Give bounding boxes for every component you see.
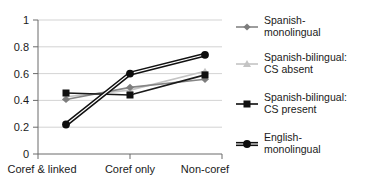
- y-tick-label-0: 0: [23, 148, 29, 160]
- markers-english-monolingual: [62, 51, 209, 129]
- legend-label-spanish-bilingual-cs-absent-line2: CS absent: [264, 63, 313, 75]
- chart-figure: 1 0.8 0.6 0.4 0.2 0 Coref & linked Coref…: [0, 0, 370, 184]
- legend-item-spanish-monolingual[interactable]: Spanish- monolingual: [236, 14, 321, 38]
- x-cat-label-non-coref: Non-coref: [181, 163, 230, 175]
- legend-item-spanish-bilingual-cs-absent[interactable]: Spanish-bilingual: CS absent: [236, 51, 347, 75]
- legend-label-spanish-bilingual-cs-present-line2: CS present: [264, 103, 317, 115]
- y-tick-label-0.6: 0.6: [14, 68, 29, 80]
- line-chart-svg: 1 0.8 0.6 0.4 0.2 0 Coref & linked Coref…: [0, 0, 370, 184]
- x-axis: Coref & linked Coref only Non-coref: [7, 154, 230, 175]
- y-tick-label-0.4: 0.4: [14, 94, 29, 106]
- legend-label-spanish-bilingual-cs-absent-line1: Spanish-bilingual:: [264, 51, 347, 63]
- legend-marker-circle-icon: [243, 140, 251, 148]
- x-cat-label-coref-and-linked: Coref & linked: [7, 163, 76, 175]
- x-cat-label-coref-only: Coref only: [105, 163, 156, 175]
- legend-marker-diamond-icon: [243, 23, 250, 30]
- y-tick-label-1.0: 1: [23, 14, 29, 26]
- legend-label-english-monolingual-line1: English-: [264, 131, 302, 143]
- y-tick-label-0.2: 0.2: [14, 121, 29, 133]
- y-tick-label-0.8: 0.8: [14, 41, 29, 53]
- y-axis: 1 0.8 0.6 0.4 0.2 0: [14, 14, 38, 160]
- series-line-english-monolingual: [66, 55, 205, 125]
- legend-item-english-monolingual[interactable]: English- monolingual: [236, 131, 321, 155]
- legend-label-spanish-monolingual-line2: monolingual: [264, 26, 321, 38]
- legend-label-spanish-bilingual-cs-present-line1: Spanish-bilingual:: [264, 91, 347, 103]
- series-line-spanish-bilingual-cs-present: [66, 75, 205, 95]
- legend-item-spanish-bilingual-cs-present[interactable]: Spanish-bilingual: CS present: [236, 91, 347, 115]
- legend-label-spanish-monolingual-line1: Spanish-: [264, 14, 306, 26]
- chart-legend: Spanish- monolingual Spanish-bilingual: …: [236, 14, 347, 155]
- legend-label-english-monolingual-line2: monolingual: [264, 143, 321, 155]
- legend-marker-square-icon: [244, 101, 251, 108]
